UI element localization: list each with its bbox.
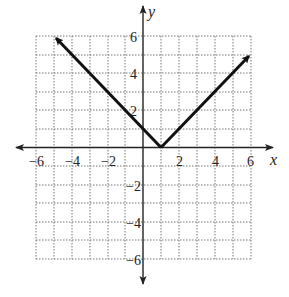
x-tick-label: −4 [65,154,80,169]
x-tick-label: −2 [101,154,116,169]
coordinate-plane: −6 −4 −2 2 4 6 6 4 2 −2 −4 −6 x y [0,0,289,297]
y-axis-label: y [146,3,156,21]
y-tick-label: 6 [130,30,137,45]
axes [16,6,273,284]
x-tick-label: 6 [247,154,254,169]
y-tick-label: 4 [130,67,137,82]
y-tick-label: −4 [126,216,141,231]
x-tick-labels: −6 −4 −2 2 4 6 [29,154,254,169]
x-tick-label: 2 [176,154,183,169]
x-axis-label: x [269,151,277,168]
y-tick-label: −6 [126,253,141,268]
x-tick-label: −6 [29,154,44,169]
x-tick-label: 4 [212,154,219,169]
absolute-value-graph [56,38,249,148]
y-tick-labels: 6 4 2 −2 −4 −6 [126,30,141,268]
y-tick-label: −2 [126,179,141,194]
